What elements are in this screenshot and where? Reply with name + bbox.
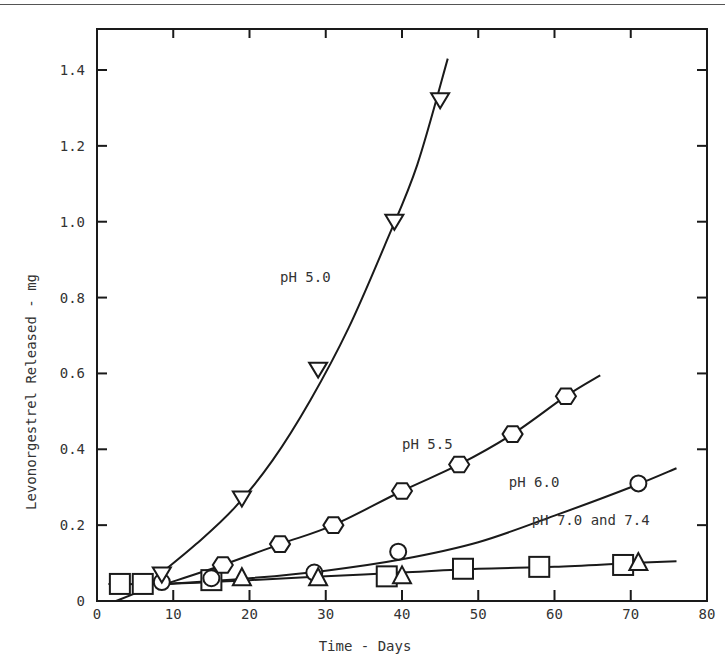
hexagon-marker	[323, 517, 343, 533]
y-tick-label: 0.4	[60, 441, 85, 457]
release-chart: 0102030405060708000.20.40.60.81.01.21.4 …	[0, 0, 725, 668]
triangle-down-marker	[385, 215, 403, 230]
x-tick-label: 50	[470, 606, 487, 622]
square-marker	[110, 574, 130, 594]
x-tick-label: 10	[165, 606, 182, 622]
square-marker	[453, 559, 473, 579]
circle-marker	[630, 475, 646, 491]
y-tick-label: 1.4	[60, 62, 85, 78]
series-label-ph-7-0-and-7-4: pH 7.0 and 7.4	[532, 512, 650, 528]
y-tick-label: 1.0	[60, 214, 85, 230]
x-tick-label: 40	[394, 606, 411, 622]
x-tick-label: 80	[699, 606, 716, 622]
hexagon-marker	[270, 536, 290, 552]
x-tick-label: 20	[241, 606, 258, 622]
series-label-ph-6-0: pH 6.0	[509, 474, 560, 490]
y-axis-title: Levonorgestrel Released - mg	[23, 274, 39, 510]
y-tick-label: 0.8	[60, 290, 85, 306]
axes: 0102030405060708000.20.40.60.81.01.21.4	[60, 29, 716, 622]
triangle-down-marker	[233, 492, 251, 507]
hexagon-marker	[449, 457, 469, 473]
y-tick-label: 0	[77, 593, 85, 609]
series-labels: pH 5.0pH 5.5pH 6.0pH 7.0 and 7.4	[280, 269, 650, 528]
hexagon-marker	[503, 426, 523, 442]
hexagon-marker	[556, 388, 576, 404]
x-tick-label: 60	[546, 606, 563, 622]
hexagon-marker	[392, 483, 412, 499]
square-marker	[613, 555, 633, 575]
x-tick-label: 70	[622, 606, 639, 622]
x-tick-label: 30	[317, 606, 334, 622]
y-tick-label: 0.2	[60, 517, 85, 533]
circle-marker	[390, 544, 406, 560]
hexagon-marker	[213, 557, 233, 573]
x-axis-title: Time - Days	[319, 638, 412, 654]
y-tick-label: 1.2	[60, 138, 85, 154]
square-marker	[133, 574, 153, 594]
series-label-ph-5-0: pH 5.0	[280, 269, 331, 285]
series-label-ph-5-5: pH 5.5	[402, 436, 453, 452]
x-tick-label: 0	[93, 606, 101, 622]
square-marker	[529, 557, 549, 577]
y-tick-label: 0.6	[60, 365, 85, 381]
triangle-up-marker	[233, 568, 251, 585]
